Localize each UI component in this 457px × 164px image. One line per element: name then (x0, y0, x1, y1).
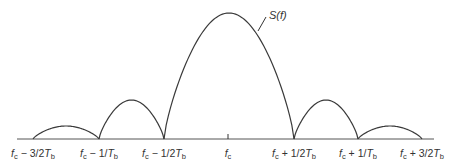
axis-label-1: fc − 1/Tb (80, 147, 118, 161)
first-left-sidelobe (99, 100, 164, 139)
spectrum-diagram: S(f) fc − 3/2Tbfc − 1/Tbfc − 1/2Tbfcfc +… (0, 0, 457, 164)
axis-label-3: fc (225, 147, 232, 161)
curve-label-leader (258, 17, 266, 31)
axis-label-4: fc + 1/2Tb (272, 147, 316, 161)
main-lobe (164, 13, 294, 139)
axis-label-6: fc + 3/2Tb (400, 147, 444, 161)
axis-label-2: fc − 1/2Tb (142, 147, 186, 161)
axis-tick-labels: fc − 3/2Tbfc − 1/Tbfc − 1/2Tbfcfc + 1/2T… (11, 147, 444, 161)
curve-label: S(f) (269, 9, 287, 21)
axis-label-0: fc − 3/2Tb (11, 147, 55, 161)
power-spectrum-curve (33, 13, 422, 139)
first-right-sidelobe (294, 100, 358, 139)
axis-label-5: fc + 1/Tb (339, 147, 377, 161)
second-right-sidelobe (358, 126, 422, 139)
second-left-sidelobe (33, 126, 99, 139)
